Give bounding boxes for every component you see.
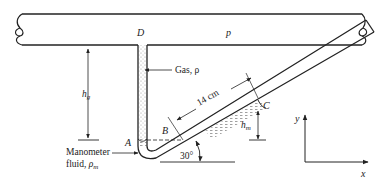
label-y-axis: y bbox=[294, 113, 300, 124]
label-fluid: fluid, ρm bbox=[66, 159, 98, 171]
label-14cm: 14 cm bbox=[195, 87, 221, 108]
label-d: D bbox=[136, 27, 145, 38]
gas-column bbox=[139, 45, 147, 139]
label-a: A bbox=[124, 137, 132, 148]
xy-axes bbox=[305, 115, 368, 162]
label-manometer: Manometer bbox=[66, 147, 111, 157]
label-b: B bbox=[162, 125, 168, 136]
angle-arc bbox=[196, 141, 200, 161]
label-gas: Gas, ρ bbox=[175, 65, 200, 75]
label-hg: hg bbox=[82, 89, 91, 101]
manometer-diagram: D p Gas, ρ hg A B C 14 cm hm 30° Manomet… bbox=[0, 0, 381, 183]
label-p: p bbox=[225, 27, 231, 38]
manometer-fluid-incline bbox=[205, 100, 266, 139]
label-x-axis: x bbox=[360, 168, 366, 179]
manometer-tube bbox=[138, 20, 374, 159]
gas-pipe bbox=[16, 14, 367, 45]
label-hm: hm bbox=[241, 120, 251, 132]
label-angle: 30° bbox=[180, 151, 194, 161]
label-c: C bbox=[263, 100, 270, 111]
